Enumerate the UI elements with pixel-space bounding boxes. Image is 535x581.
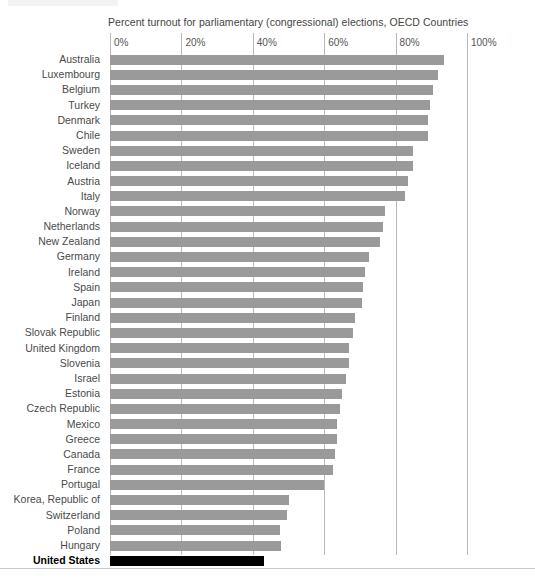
bar-row [110, 52, 467, 67]
category-label: Sweden [0, 143, 105, 158]
category-label: Japan [0, 295, 105, 310]
category-label: Czech Republic [0, 401, 105, 416]
category-label: Chile [0, 128, 105, 143]
bar [110, 328, 353, 338]
bar-row [110, 417, 467, 432]
bar [110, 146, 413, 156]
category-label: Austria [0, 174, 105, 189]
category-label: Australia [0, 52, 105, 67]
category-axis-labels: AustraliaLuxembourgBelgiumTurkeyDenmarkC… [0, 52, 105, 555]
bar [110, 176, 408, 186]
bar-row [110, 523, 467, 538]
bar-row [110, 219, 467, 234]
bar [110, 419, 337, 429]
bar-row [110, 174, 467, 189]
bar-row [110, 67, 467, 82]
x-tick-label: 60% [324, 37, 348, 48]
bar-row [110, 189, 467, 204]
category-label: Turkey [0, 98, 105, 113]
bar [110, 100, 430, 110]
bar [110, 85, 433, 95]
category-label: Hungary [0, 538, 105, 553]
bar [110, 131, 428, 141]
page-bottom-rule [0, 568, 535, 569]
bar-row [110, 477, 467, 492]
bar [110, 161, 413, 171]
bar [110, 404, 340, 414]
category-label: Portugal [0, 477, 105, 492]
bar-row [110, 98, 467, 113]
bar [110, 358, 349, 368]
bar [110, 252, 369, 262]
bar-row [110, 371, 467, 386]
category-label: Mexico [0, 417, 105, 432]
bar-row [110, 538, 467, 553]
page-top-artifact [8, 0, 118, 6]
bar-row [110, 128, 467, 143]
category-label: Luxembourg [0, 67, 105, 82]
bar-row [110, 280, 467, 295]
category-label: Greece [0, 432, 105, 447]
bar [110, 525, 280, 535]
x-tick-label: 80% [396, 37, 420, 48]
bar [110, 480, 324, 490]
bar-row [110, 158, 467, 173]
category-label: Netherlands [0, 219, 105, 234]
bar [110, 374, 346, 384]
category-label: Italy [0, 189, 105, 204]
bar-row [110, 310, 467, 325]
bar [110, 298, 362, 308]
bar-row [110, 492, 467, 507]
category-label: Korea, Republic of [0, 492, 105, 507]
chart-title: Percent turnout for parliamentary (congr… [108, 16, 468, 28]
bar [110, 55, 444, 65]
bar-row [110, 143, 467, 158]
gridline [467, 33, 468, 555]
category-label: France [0, 462, 105, 477]
bar-row [110, 265, 467, 280]
bar [110, 70, 438, 80]
category-label: Norway [0, 204, 105, 219]
bar-row [110, 401, 467, 416]
bar-row [110, 204, 467, 219]
category-label: Switzerland [0, 508, 105, 523]
bar [110, 541, 281, 551]
category-label: Germany [0, 249, 105, 264]
x-tick-label: 40% [253, 37, 277, 48]
category-label: Finland [0, 310, 105, 325]
bar-row [110, 249, 467, 264]
x-tick-label: 100% [467, 37, 497, 48]
bar-row [110, 234, 467, 249]
bar-row [110, 432, 467, 447]
category-label: Denmark [0, 113, 105, 128]
bar [110, 343, 349, 353]
bar [110, 434, 337, 444]
bars-container [110, 52, 467, 555]
chart-page: Percent turnout for parliamentary (congr… [0, 0, 535, 581]
bar [110, 222, 383, 232]
bar-row [110, 356, 467, 371]
bar-row [110, 447, 467, 462]
bar-highlighted [110, 556, 264, 566]
plot-area: 0%20%40%60%80%100% [110, 33, 467, 555]
category-label: Belgium [0, 82, 105, 97]
bar [110, 267, 365, 277]
category-label: Estonia [0, 386, 105, 401]
bar [110, 115, 428, 125]
bar-row [110, 508, 467, 523]
category-label: Canada [0, 447, 105, 462]
category-label: Israel [0, 371, 105, 386]
bar [110, 313, 355, 323]
category-label: Slovenia [0, 356, 105, 371]
category-label: United States [0, 553, 105, 568]
value-axis: 0%20%40%60%80%100% [110, 33, 467, 52]
bar [110, 495, 289, 505]
bar-row [110, 386, 467, 401]
x-tick-label: 20% [181, 37, 205, 48]
category-label: New Zealand [0, 234, 105, 249]
category-label: United Kingdom [0, 341, 105, 356]
bar-row [110, 82, 467, 97]
bar-row [110, 113, 467, 128]
bar [110, 465, 333, 475]
category-label: Slovak Republic [0, 325, 105, 340]
